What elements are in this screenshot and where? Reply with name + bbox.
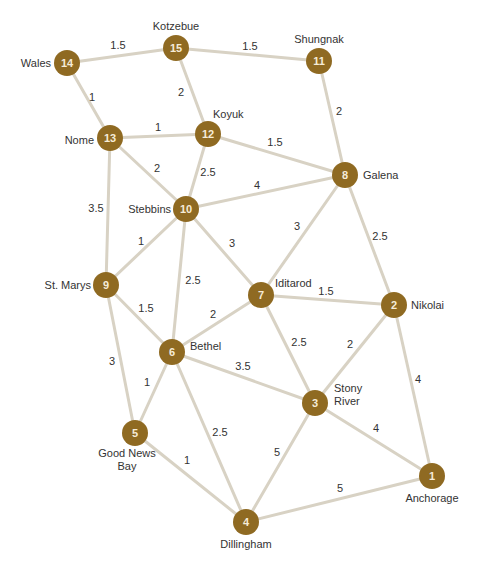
node-name-label: Galena bbox=[363, 169, 399, 181]
edge-weight-label-3-4: 5 bbox=[274, 446, 280, 458]
edge-weight-label-6-3: 3.5 bbox=[235, 360, 250, 372]
edge-2-1 bbox=[394, 305, 432, 476]
node-name-label: River bbox=[334, 395, 360, 407]
node-name-label: Bethel bbox=[190, 340, 221, 352]
node-name-label: Iditarod bbox=[275, 277, 312, 289]
edge-weight-label-4-1: 5 bbox=[337, 482, 343, 494]
edge-weight-label-3-1: 4 bbox=[373, 422, 379, 434]
node-15: 15Kotzebue bbox=[153, 20, 199, 61]
edge-11-8 bbox=[319, 61, 345, 175]
node-name-label: Stony bbox=[334, 382, 363, 394]
node-id-label: 10 bbox=[180, 203, 192, 215]
node-14: 14Wales bbox=[21, 50, 80, 76]
edge-6-4 bbox=[172, 352, 246, 522]
node-id-label: 15 bbox=[170, 42, 182, 54]
node-id-label: 13 bbox=[104, 132, 116, 144]
node-6: 6Bethel bbox=[159, 339, 221, 365]
node-4: 4Dillingham bbox=[220, 509, 271, 550]
edge-weight-label-5-4: 1 bbox=[184, 454, 190, 466]
node-2: 2Nikolai bbox=[381, 292, 444, 318]
node-id-label: 9 bbox=[103, 279, 109, 291]
edge-weight-label-12-8: 1.5 bbox=[267, 136, 282, 148]
edge-6-5 bbox=[135, 352, 172, 433]
edge-10-6 bbox=[172, 209, 186, 352]
node-id-label: 14 bbox=[61, 57, 74, 69]
node-name-label: St. Marys bbox=[45, 279, 92, 291]
edge-weight-label-2-3: 2 bbox=[347, 338, 353, 350]
route-graph: 1.51.512121.522.543.51332.52.51.521.5313… bbox=[0, 0, 484, 579]
node-id-label: 3 bbox=[312, 397, 318, 409]
node-13: 13Nome bbox=[65, 125, 123, 151]
node-name-label: Nikolai bbox=[411, 299, 444, 311]
node-name-label: Nome bbox=[65, 134, 94, 146]
node-8: 8Galena bbox=[332, 162, 399, 188]
edge-weight-label-9-5: 3 bbox=[109, 355, 115, 367]
edge-weight-label-15-11: 1.5 bbox=[242, 40, 257, 52]
node-name-label: Wales bbox=[21, 57, 52, 69]
edge-weight-label-14-15: 1.5 bbox=[110, 39, 125, 51]
node-name-label: Good News bbox=[98, 447, 156, 459]
node-name-label: Shungnak bbox=[294, 33, 344, 45]
edge-weight-label-6-4: 2.5 bbox=[212, 426, 227, 438]
node-id-label: 2 bbox=[391, 299, 397, 311]
edge-weight-label-7-6: 2 bbox=[210, 308, 216, 320]
edge-3-4 bbox=[246, 403, 315, 522]
node-id-label: 1 bbox=[429, 470, 435, 482]
edge-13-10 bbox=[110, 138, 186, 209]
edge-13-9 bbox=[106, 138, 110, 285]
node-10: 10Stebbins bbox=[128, 196, 199, 222]
node-id-label: 7 bbox=[258, 289, 264, 301]
edge-weight-label-13-9: 3.5 bbox=[88, 202, 103, 214]
edge-weight-label-10-6: 2.5 bbox=[185, 274, 200, 286]
edge-weight-label-7-2: 1.5 bbox=[318, 285, 333, 297]
edge-weight-label-14-13: 1 bbox=[89, 91, 95, 103]
node-id-label: 8 bbox=[342, 169, 348, 181]
node-id-label: 11 bbox=[313, 55, 325, 67]
node-name-label: Stebbins bbox=[128, 203, 171, 215]
edge-weight-label-13-12: 1 bbox=[155, 121, 161, 133]
edge-weight-label-8-7: 3 bbox=[294, 220, 300, 232]
node-name-label: Kotzebue bbox=[153, 20, 199, 32]
edge-10-9 bbox=[106, 209, 186, 285]
edge-weight-label-6-5: 1 bbox=[144, 376, 150, 388]
node-id-label: 6 bbox=[169, 346, 175, 358]
node-7: 7Iditarod bbox=[248, 277, 312, 308]
edge-weight-label-9-6: 1.5 bbox=[138, 302, 153, 314]
node-9: 9St. Marys bbox=[45, 272, 119, 298]
node-1: 1Anchorage bbox=[405, 463, 458, 504]
edge-weight-label-11-8: 2 bbox=[336, 105, 342, 117]
node-id-label: 5 bbox=[132, 427, 138, 439]
node-11: 11Shungnak bbox=[294, 33, 344, 74]
node-name-label: Anchorage bbox=[405, 492, 458, 504]
edge-weight-label-15-12: 2 bbox=[178, 86, 184, 98]
node-3: 3StonyRiver bbox=[302, 382, 363, 416]
node-name-label: Dillingham bbox=[220, 538, 271, 550]
node-5: 5Good NewsBay bbox=[98, 420, 156, 472]
edge-weight-label-10-7: 3 bbox=[229, 237, 235, 249]
edge-weight-label-13-10: 2 bbox=[154, 162, 160, 174]
edge-weight-label-10-9: 1 bbox=[138, 235, 144, 247]
edge-weight-label-7-3: 2.5 bbox=[291, 336, 306, 348]
edge-3-1 bbox=[315, 403, 432, 476]
node-id-label: 4 bbox=[243, 516, 250, 528]
edge-10-8 bbox=[186, 175, 345, 209]
node-name-label: Koyuk bbox=[213, 108, 244, 120]
edge-weight-label-12-10: 2.5 bbox=[200, 166, 215, 178]
edge-weight-label-10-8: 4 bbox=[254, 179, 260, 191]
node-id-label: 12 bbox=[202, 128, 214, 140]
edge-weight-label-8-2: 2.5 bbox=[372, 230, 387, 242]
edge-weight-label-2-1: 4 bbox=[415, 373, 421, 385]
node-name-label: Bay bbox=[118, 460, 137, 472]
edge-13-12 bbox=[110, 134, 208, 138]
